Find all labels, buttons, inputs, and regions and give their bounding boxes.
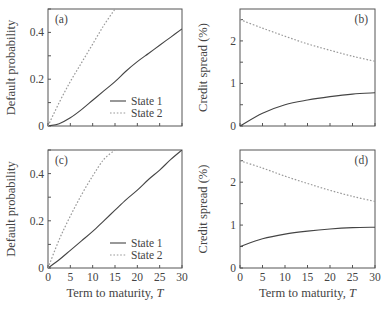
x-tick-label: 20 [132,271,144,283]
panel-a: 00.20.4Default probability(a)State 1Stat… [4,9,182,132]
x-tick-label: 5 [67,271,73,283]
y-tick-label: 0 [38,120,44,132]
plot-frame [240,9,375,126]
panel-label: (c) [55,154,68,167]
x-tick-label: 0 [237,271,243,283]
legend: State 1State 2 [110,237,163,261]
y-axis-label: Credit spread (%) [196,23,210,112]
panel-d: 012051015202530Term to maturity, TCredit… [196,150,381,300]
legend-label-state-1: State 1 [131,95,163,107]
y-tick-label: 1 [230,77,236,89]
legend: State 1State 2 [110,95,163,119]
y-axis-label: Default probability [4,19,18,115]
panel-label: (b) [355,13,369,26]
legend-label-state-1: State 1 [131,237,163,249]
y-tick-label: 0 [230,120,236,132]
x-tick-label: 15 [109,271,121,283]
y-tick-label: 1 [230,219,236,231]
figure-canvas: 00.20.4Default probability(a)State 1Stat… [0,0,388,309]
y-tick-label: 0.4 [30,26,45,38]
y-tick-label: 0 [230,262,236,274]
x-tick-label: 10 [279,271,291,283]
y-axis-label: Credit spread (%) [196,165,210,254]
y-tick-label: 2 [230,35,236,47]
panel-label: (d) [355,154,369,167]
series-state-2 [48,9,115,126]
y-tick-label: 0.2 [30,215,45,227]
panel-c: 00.20.4051015202530Term to maturity, TDe… [4,150,188,300]
y-tick-label: 2 [230,176,236,188]
x-axis-label: Term to maturity, T [259,286,357,300]
series-state-2 [240,161,375,202]
series-state-1 [240,93,375,126]
y-tick-label: 0.4 [30,168,45,180]
series-state-1 [240,227,375,246]
legend-label-state-2: State 2 [131,249,163,261]
x-tick-label: 10 [87,271,99,283]
x-tick-label: 15 [302,271,314,283]
series-state-2 [48,150,115,268]
x-tick-label: 0 [45,271,51,283]
x-tick-label: 30 [369,271,381,283]
legend-label-state-2: State 2 [131,107,163,119]
panel-label: (a) [55,13,68,26]
y-tick-label: 0.2 [30,73,45,85]
x-tick-label: 25 [154,271,166,283]
x-tick-label: 25 [347,271,359,283]
x-tick-label: 20 [324,271,336,283]
y-tick-label: 0 [38,262,44,274]
x-tick-label: 30 [176,271,188,283]
x-axis-label: Term to maturity, T [67,286,165,300]
panel-b: 012Credit spread (%)(b) [196,9,375,132]
y-axis-label: Default probability [4,161,18,257]
x-tick-label: 5 [260,271,266,283]
series-state-2 [240,20,375,62]
